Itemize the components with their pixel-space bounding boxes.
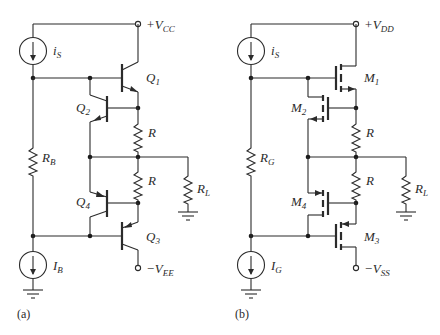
is-label: iS: [271, 43, 280, 60]
r-lower-label: R: [147, 173, 156, 188]
transistor-m1: [336, 24, 356, 108]
ground-icon: [178, 212, 198, 220]
vdd-label: +VDD: [364, 17, 394, 34]
ig-label: IG: [270, 258, 282, 275]
m2-label: M2: [290, 100, 307, 117]
q1-label: Q1: [146, 70, 160, 87]
vee-terminal: [135, 265, 140, 270]
transistor-q2: [90, 78, 107, 157]
q4-label: Q4: [76, 194, 90, 211]
transistor-q1: [122, 24, 138, 108]
vee-label: −VEE: [146, 261, 174, 278]
transistor-q3: [122, 222, 138, 265]
bias-resistor-rg: [247, 144, 255, 178]
caption-a: (a): [17, 307, 30, 321]
r-lower-label: R: [365, 173, 374, 188]
caption-b: (b): [235, 307, 249, 321]
vss-label: −VSS: [364, 261, 390, 278]
rl-label: RL: [414, 181, 428, 198]
vss-terminal: [353, 265, 358, 270]
rg-label: RG: [259, 150, 275, 167]
panel-a: +VCC iS Q1: [17, 17, 210, 321]
transistor-m4: [308, 190, 328, 236]
r-upper-label: R: [147, 125, 156, 140]
transistor-m3: [336, 221, 356, 265]
transistor-q4: [90, 190, 107, 237]
m3-label: M3: [363, 229, 380, 246]
circuit-diagram: +VCC iS Q1: [0, 0, 440, 335]
r-upper-label: R: [365, 125, 374, 140]
m1-label: M1: [363, 70, 379, 87]
rl-label: RL: [196, 181, 210, 198]
q3-label: Q3: [146, 229, 160, 246]
m4-label: M4: [290, 194, 307, 211]
ground-icon: [241, 290, 261, 298]
load-resistor-b: [402, 172, 410, 206]
vcc-label: +VCC: [146, 17, 176, 34]
transistor-m2: [308, 78, 328, 157]
rb-label: RB: [41, 150, 56, 167]
ground-icon: [23, 290, 43, 298]
ground-icon: [396, 212, 416, 220]
load-resistor-a: [184, 172, 192, 206]
q2-label: Q2: [76, 100, 90, 117]
panel-b: +VDD iS M1: [235, 17, 428, 321]
is-label: iS: [53, 43, 62, 60]
bias-resistor-rb: [29, 144, 37, 178]
ib-label: IB: [52, 258, 63, 275]
